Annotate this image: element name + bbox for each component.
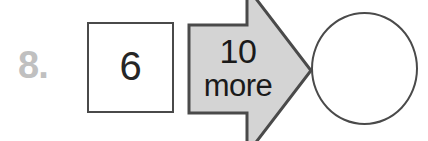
answer-circle-value [313,14,416,123]
problem-number-label: 8. [18,42,70,88]
arrow-polygon [189,0,311,141]
start-number-box: 6 [87,22,174,113]
start-number-value: 6 [119,46,141,89]
answer-circle[interactable] [311,12,418,125]
right-arrow-shape [186,0,314,141]
right-arrow-icon [186,0,314,141]
worksheet-problem-item: 8. 6 10 more [0,0,428,141]
